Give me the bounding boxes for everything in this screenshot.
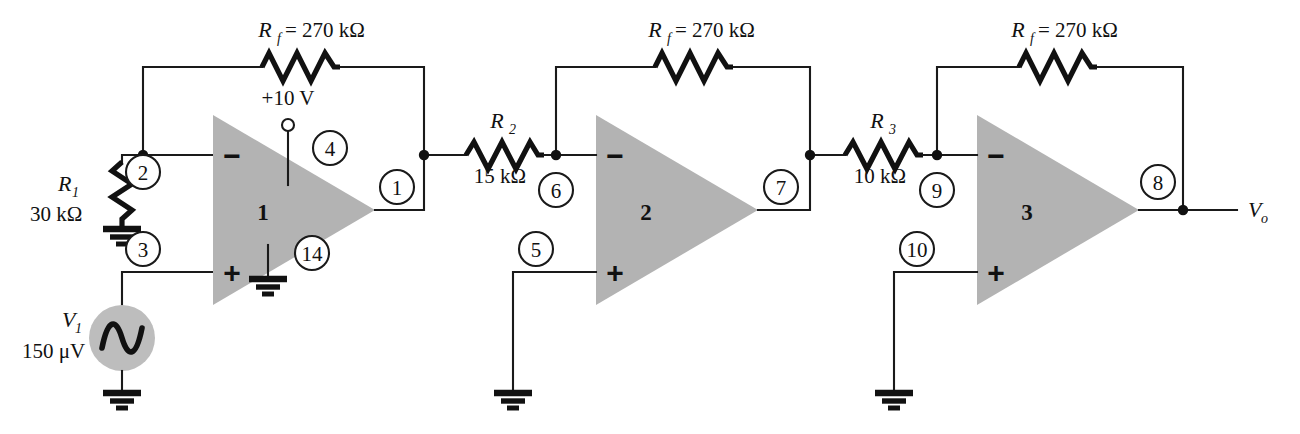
source-v1-branch — [89, 272, 213, 392]
r2-label-subscript: 2 — [509, 122, 516, 137]
node-bubble-1-label: 1 — [392, 176, 403, 200]
junction-dot-node1 — [419, 150, 429, 160]
r3-label-value: 10 kΩ — [854, 164, 906, 188]
rf1-label-symbol: R — [257, 17, 272, 42]
opamp-3-noninverting-input-sign: + — [987, 256, 1005, 289]
node-bubble-8: 8 — [1141, 165, 1175, 199]
opamp-1-noninverting-input-sign: + — [223, 256, 241, 289]
rf1-label-subscript: f — [277, 31, 283, 46]
feedback-path-stage-2 — [556, 53, 810, 155]
opamp-3-inverting-input-sign: − — [987, 139, 1005, 172]
node-bubble-10-label: 10 — [907, 238, 928, 262]
junction-dot-node6 — [551, 150, 561, 160]
rf2-label-subscript: f — [667, 31, 673, 46]
v1-label-value: 150 μV — [22, 339, 85, 363]
r3-label-symbol: R — [869, 108, 884, 133]
node-bubble-5: 5 — [519, 232, 553, 266]
r2-label-symbol: R — [489, 108, 504, 133]
wire-opamp2-plus-to-ground — [513, 272, 596, 392]
wire-fb2-right — [733, 67, 810, 155]
rf2-label-symbol: R — [647, 17, 662, 42]
rf3-label-subscript: f — [1030, 31, 1036, 46]
node-bubble-1: 1 — [380, 170, 414, 204]
node-bubble-6: 6 — [539, 173, 573, 207]
rf2-label-value: = 270 kΩ — [675, 18, 755, 42]
opamp-1-number: 1 — [257, 200, 269, 225]
node-bubble-5-label: 5 — [531, 238, 542, 262]
node-bubble-4-label: 4 — [325, 137, 336, 161]
node-bubble-8-label: 8 — [1153, 171, 1164, 195]
node-bubble-4: 4 — [313, 131, 347, 165]
wire-fb1-right — [340, 67, 424, 155]
output-label-subscript: o — [1261, 211, 1268, 226]
wire-opamp3-plus-to-ground — [894, 272, 977, 392]
node-bubble-2: 2 — [126, 155, 160, 189]
rf2-zigzag — [655, 53, 733, 81]
rf3-label-value: = 270 kΩ — [1038, 18, 1118, 42]
rf3-label-symbol: R — [1010, 17, 1025, 42]
node-bubble-9: 9 — [920, 173, 954, 207]
node-bubble-6-label: 6 — [551, 179, 562, 203]
circuit-schematic: R f = 270 kΩ R 1 30 kΩ V 1 150 μV 1 − + … — [0, 0, 1300, 434]
node-bubble-9-label: 9 — [932, 179, 943, 203]
r2-label-value: 15 kΩ — [474, 164, 526, 188]
supply-voltage-label: +10 V — [262, 86, 315, 110]
r1-label-value: 30 kΩ — [30, 202, 82, 226]
circuit-diagram-canvas: R f = 270 kΩ R 1 30 kΩ V 1 150 μV 1 − + … — [0, 0, 1300, 434]
node-bubble-3: 3 — [126, 232, 160, 266]
wire-plus1-to-source — [122, 272, 213, 305]
ground-source — [103, 393, 141, 408]
r1-label-symbol: R — [57, 171, 72, 196]
r1-label-subscript: 1 — [72, 185, 79, 200]
node-bubble-14-label: 14 — [302, 242, 324, 266]
r3-label-subscript: 3 — [888, 122, 896, 137]
node-bubble-7: 7 — [764, 170, 798, 204]
node-bubble-2-label: 2 — [138, 161, 149, 185]
junction-dot-node7 — [805, 150, 815, 160]
rf1-zigzag — [262, 53, 340, 81]
ground-branch-opamp2 — [494, 272, 596, 408]
node-bubble-14: 14 — [295, 236, 329, 270]
node-bubble-10: 10 — [900, 232, 934, 266]
rf3-zigzag — [1019, 53, 1097, 81]
opamp-2-noninverting-input-sign: + — [606, 256, 624, 289]
junction-dot-node9 — [932, 150, 942, 160]
resistor-rf1 — [262, 53, 340, 81]
node-bubble-3-label: 3 — [138, 238, 149, 262]
v1-label-subscript: 1 — [75, 321, 82, 336]
ground-branch-opamp3 — [875, 272, 977, 408]
supply-terminal-icon — [282, 119, 294, 131]
junction-dot-node8 — [1178, 205, 1188, 215]
opamp-1-inverting-input-sign: − — [223, 139, 241, 172]
opamp-2-inverting-input-sign: − — [606, 139, 624, 172]
opamp-2-number: 2 — [640, 200, 652, 225]
opamp-3-number: 3 — [1021, 200, 1033, 225]
rf1-label-value: = 270 kΩ — [285, 18, 365, 42]
node-bubble-7-label: 7 — [776, 176, 787, 200]
